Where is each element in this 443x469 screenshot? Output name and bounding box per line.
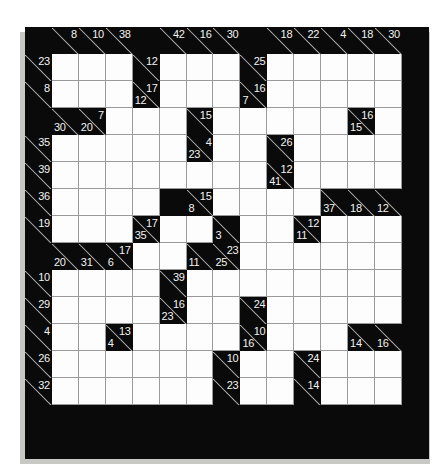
entry-cell[interactable] (240, 189, 267, 216)
entry-cell[interactable] (133, 351, 160, 378)
entry-cell[interactable] (213, 108, 240, 135)
entry-cell[interactable] (79, 54, 106, 81)
entry-cell[interactable] (294, 243, 321, 270)
entry-cell[interactable] (187, 216, 214, 243)
entry-cell[interactable] (52, 324, 79, 351)
entry-cell[interactable] (321, 324, 348, 351)
entry-cell[interactable] (348, 216, 375, 243)
entry-cell[interactable] (294, 162, 321, 189)
entry-cell[interactable] (321, 135, 348, 162)
entry-cell[interactable] (106, 270, 133, 297)
entry-cell[interactable] (160, 108, 187, 135)
entry-cell[interactable] (52, 162, 79, 189)
entry-cell[interactable] (213, 270, 240, 297)
entry-cell[interactable] (106, 162, 133, 189)
entry-cell[interactable] (187, 81, 214, 108)
entry-cell[interactable] (160, 324, 187, 351)
entry-cell[interactable] (133, 108, 160, 135)
entry-cell[interactable] (79, 81, 106, 108)
entry-cell[interactable] (160, 135, 187, 162)
entry-cell[interactable] (348, 351, 375, 378)
entry-cell[interactable] (267, 351, 294, 378)
entry-cell[interactable] (321, 54, 348, 81)
entry-cell[interactable] (52, 135, 79, 162)
entry-cell[interactable] (160, 81, 187, 108)
entry-cell[interactable] (240, 135, 267, 162)
entry-cell[interactable] (52, 81, 79, 108)
entry-cell[interactable] (321, 378, 348, 405)
entry-cell[interactable] (133, 135, 160, 162)
entry-cell[interactable] (267, 297, 294, 324)
entry-cell[interactable] (160, 216, 187, 243)
entry-cell[interactable] (348, 162, 375, 189)
entry-cell[interactable] (160, 351, 187, 378)
entry-cell[interactable] (375, 351, 402, 378)
entry-cell[interactable] (187, 297, 214, 324)
entry-cell[interactable] (267, 270, 294, 297)
entry-cell[interactable] (213, 189, 240, 216)
entry-cell[interactable] (240, 108, 267, 135)
entry-cell[interactable] (106, 81, 133, 108)
entry-cell[interactable] (213, 162, 240, 189)
entry-cell[interactable] (267, 216, 294, 243)
entry-cell[interactable] (240, 378, 267, 405)
entry-cell[interactable] (375, 81, 402, 108)
entry-cell[interactable] (213, 324, 240, 351)
entry-cell[interactable] (294, 108, 321, 135)
entry-cell[interactable] (375, 378, 402, 405)
entry-cell[interactable] (348, 135, 375, 162)
entry-cell[interactable] (267, 108, 294, 135)
entry-cell[interactable] (267, 81, 294, 108)
entry-cell[interactable] (133, 162, 160, 189)
entry-cell[interactable] (267, 243, 294, 270)
entry-cell[interactable] (79, 162, 106, 189)
entry-cell[interactable] (52, 351, 79, 378)
entry-cell[interactable] (106, 351, 133, 378)
entry-cell[interactable] (160, 162, 187, 189)
entry-cell[interactable] (79, 189, 106, 216)
entry-cell[interactable] (160, 243, 187, 270)
entry-cell[interactable] (240, 243, 267, 270)
entry-cell[interactable] (79, 324, 106, 351)
entry-cell[interactable] (240, 351, 267, 378)
entry-cell[interactable] (133, 243, 160, 270)
entry-cell[interactable] (106, 54, 133, 81)
entry-cell[interactable] (294, 81, 321, 108)
entry-cell[interactable] (375, 135, 402, 162)
entry-cell[interactable] (321, 270, 348, 297)
entry-cell[interactable] (79, 378, 106, 405)
entry-cell[interactable] (213, 297, 240, 324)
entry-cell[interactable] (106, 108, 133, 135)
entry-cell[interactable] (79, 135, 106, 162)
entry-cell[interactable] (375, 162, 402, 189)
entry-cell[interactable] (79, 216, 106, 243)
entry-cell[interactable] (375, 270, 402, 297)
entry-cell[interactable] (321, 216, 348, 243)
entry-cell[interactable] (133, 297, 160, 324)
entry-cell[interactable] (348, 54, 375, 81)
entry-cell[interactable] (267, 189, 294, 216)
entry-cell[interactable] (321, 162, 348, 189)
entry-cell[interactable] (52, 216, 79, 243)
entry-cell[interactable] (79, 270, 106, 297)
entry-cell[interactable] (375, 108, 402, 135)
entry-cell[interactable] (294, 135, 321, 162)
entry-cell[interactable] (133, 189, 160, 216)
entry-cell[interactable] (294, 54, 321, 81)
entry-cell[interactable] (106, 378, 133, 405)
entry-cell[interactable] (133, 324, 160, 351)
entry-cell[interactable] (187, 270, 214, 297)
entry-cell[interactable] (348, 81, 375, 108)
entry-cell[interactable] (52, 54, 79, 81)
entry-cell[interactable] (321, 108, 348, 135)
entry-cell[interactable] (187, 162, 214, 189)
entry-cell[interactable] (348, 270, 375, 297)
entry-cell[interactable] (160, 378, 187, 405)
entry-cell[interactable] (187, 54, 214, 81)
entry-cell[interactable] (106, 297, 133, 324)
entry-cell[interactable] (160, 54, 187, 81)
entry-cell[interactable] (52, 378, 79, 405)
entry-cell[interactable] (52, 270, 79, 297)
entry-cell[interactable] (106, 135, 133, 162)
entry-cell[interactable] (187, 351, 214, 378)
